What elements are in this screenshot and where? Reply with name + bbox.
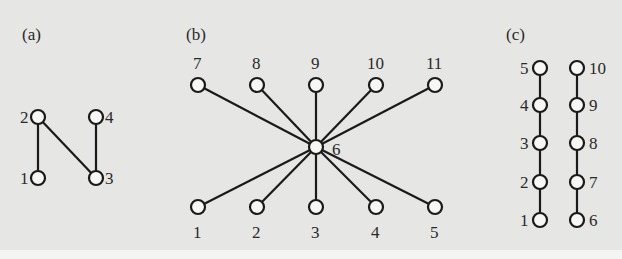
node-label-1: 1 [20,169,29,188]
node-label-3: 3 [311,223,320,242]
panel-label-c: (c) [506,25,525,44]
node-label-3: 3 [520,134,529,153]
node-1 [31,171,45,185]
bottom-margin [0,250,622,259]
node-4 [369,200,383,214]
node-2 [250,200,264,214]
panel-label-a: (a) [22,25,41,44]
node-label-2: 2 [252,223,261,242]
node-1 [191,200,205,214]
node-4 [89,110,103,124]
graph-figure: (a)1234 (b)1234567891011 (c)12345678910 [0,0,622,259]
node-label-1: 1 [193,223,202,242]
figure-background [0,0,622,259]
node-5 [533,61,547,75]
node-label-2: 2 [520,173,529,192]
node-8 [570,136,584,150]
node-label-10: 10 [367,54,384,73]
node-label-1: 1 [520,211,529,230]
node-9 [570,98,584,112]
node-label-2: 2 [20,108,29,127]
node-6 [309,140,323,154]
node-3 [533,136,547,150]
node-label-5: 5 [430,223,439,242]
node-3 [309,200,323,214]
node-label-9: 9 [589,96,598,115]
node-label-8: 8 [589,134,598,153]
node-2 [31,110,45,124]
node-9 [309,78,323,92]
node-7 [191,78,205,92]
node-6 [570,213,584,227]
node-label-10: 10 [589,59,606,78]
panel-label-b: (b) [186,25,206,44]
node-1 [533,213,547,227]
node-label-9: 9 [311,54,320,73]
node-8 [250,78,264,92]
node-label-7: 7 [193,54,202,73]
node-5 [428,200,442,214]
node-11 [428,78,442,92]
node-10 [570,61,584,75]
node-label-4: 4 [371,223,380,242]
node-label-6: 6 [589,211,598,230]
node-2 [533,175,547,189]
node-4 [533,98,547,112]
node-label-8: 8 [252,54,261,73]
node-3 [89,171,103,185]
node-label-4: 4 [520,96,529,115]
node-label-3: 3 [105,169,114,188]
node-label-7: 7 [589,173,598,192]
node-label-11: 11 [426,54,442,73]
node-label-4: 4 [105,108,114,127]
node-10 [369,78,383,92]
node-label-6: 6 [332,140,341,159]
node-7 [570,175,584,189]
node-label-5: 5 [520,59,529,78]
